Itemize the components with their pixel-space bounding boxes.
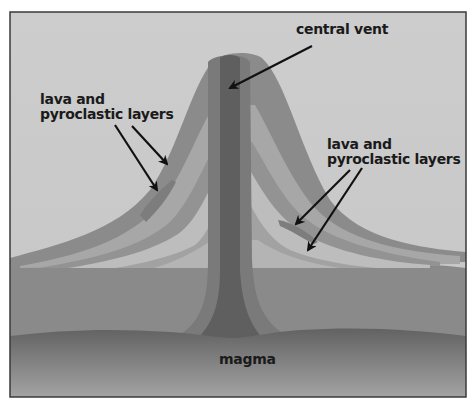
right-layers-line1: lava and [327,137,461,152]
central-vent-text: central vent [296,22,388,37]
volcano-diagram: central vent lava and pyroclastic layers… [0,0,474,409]
volcano-illustration [0,0,474,409]
left-layers-line1: lava and [40,92,174,107]
magma-label: magma [219,352,276,367]
right-layers-label: lava and pyroclastic layers [327,137,461,167]
magma-text: magma [219,352,276,367]
right-layers-line2: pyroclastic layers [327,152,461,167]
central-vent-label: central vent [296,22,388,37]
left-layers-line2: pyroclastic layers [40,107,174,122]
left-layers-label: lava and pyroclastic layers [40,92,174,122]
